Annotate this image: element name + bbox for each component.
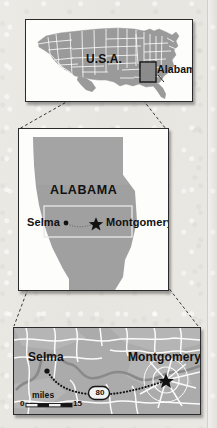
panel-alabama-state[interactable]: ALABAMA Selma Montgomery: [18, 128, 169, 291]
panel-usa-overview[interactable]: U.S.A. Alabama: [25, 19, 193, 102]
state-selma-marker: [64, 221, 69, 226]
detail-selma-marker: [44, 368, 49, 373]
detail-map-svg: [14, 328, 200, 414]
highway-shield-number: 80: [94, 388, 106, 398]
usa-country-label: U.S.A.: [86, 52, 122, 66]
page-edge-line: [207, 0, 208, 428]
page-edge-shadow: [208, 0, 217, 428]
scale-bar-min: 0: [20, 399, 25, 408]
alabama-map-svg: [19, 129, 168, 290]
detail-montgomery-label: Montgomery: [128, 350, 201, 364]
panel-route-detail[interactable]: Selma Montgomery 80 miles 0 15: [13, 327, 201, 415]
detail-selma-label: Selma: [28, 350, 64, 364]
state-montgomery-label: Montgomery: [106, 216, 169, 228]
alabama-state-label: ALABAMA: [50, 183, 117, 197]
state-selma-label: Selma: [27, 216, 60, 228]
scale-bar-units: miles: [32, 390, 54, 400]
scale-bar-max: 15: [73, 399, 82, 408]
scale-bar: [26, 404, 72, 407]
usa-alabama-callout-label: Alabama: [157, 63, 193, 75]
